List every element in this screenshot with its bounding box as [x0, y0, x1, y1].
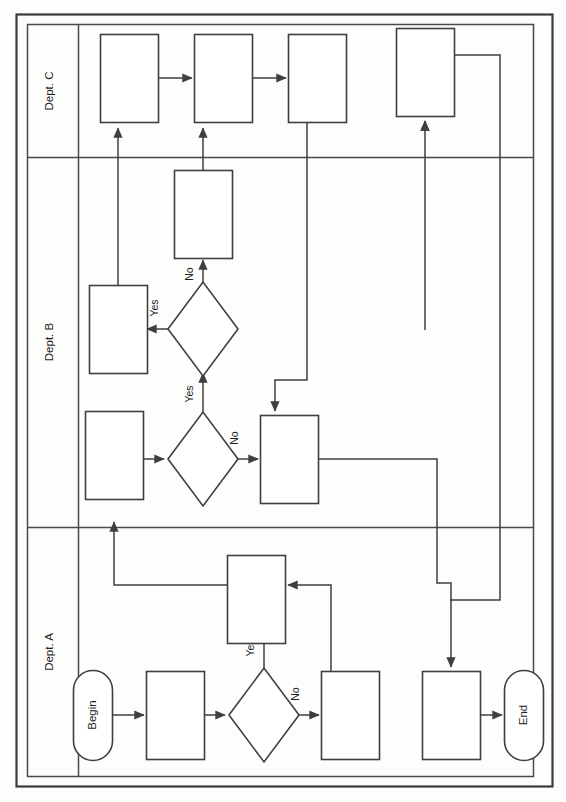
swimlane-flowchart-canvas: Dept. C Dept. B Dept. A Begin Yes No End…	[0, 0, 566, 802]
connector-c-process-4-out	[450, 55, 500, 600]
node-b-process-2[interactable]	[90, 286, 148, 374]
lane-label-dept-b: Dept. B	[43, 322, 55, 361]
node-c-process-4[interactable]	[397, 29, 455, 117]
node-c-process-2[interactable]	[195, 35, 253, 123]
connector-a-process-2-to-a-process-3	[288, 585, 331, 671]
connector-b-process-3-to-a-process-4	[319, 459, 451, 667]
swimlane-container	[28, 25, 534, 777]
lane-label-dept-a: Dept. A	[43, 633, 55, 671]
node-b-process-3[interactable]	[261, 416, 319, 504]
connector-c-process-3-to-b-process-3	[275, 122, 307, 411]
connector-a-process-3-to-b-process-1	[114, 522, 227, 585]
node-b-decision-1[interactable]	[168, 412, 238, 506]
node-b-process-1[interactable]	[86, 412, 144, 500]
node-a-process-1[interactable]	[147, 672, 205, 760]
node-a-process-4[interactable]	[423, 672, 481, 760]
terminator-begin-label: Begin	[86, 700, 98, 729]
terminator-end-label: End	[517, 705, 529, 725]
node-b-process-4[interactable]	[175, 171, 233, 259]
edge-label-a-decision-no: No	[289, 687, 301, 701]
edge-label-b-decision2-no: No	[183, 267, 195, 281]
edge-label-b-decision2-yes: Yes	[148, 299, 160, 316]
edge-label-b-decision1-yes: Yes	[183, 385, 195, 402]
node-c-process-1[interactable]	[101, 35, 159, 123]
flowchart-page: Dept. C Dept. B Dept. A Begin Yes No End…	[0, 0, 566, 802]
node-b-decision-2[interactable]	[168, 282, 238, 376]
edge-label-b-decision1-no: No	[228, 431, 240, 445]
node-a-process-3[interactable]	[228, 556, 286, 644]
node-c-process-3[interactable]	[289, 35, 347, 123]
node-a-process-2[interactable]	[322, 672, 380, 760]
node-a-decision-1[interactable]	[229, 668, 299, 762]
lane-label-dept-c: Dept. C	[43, 72, 55, 111]
